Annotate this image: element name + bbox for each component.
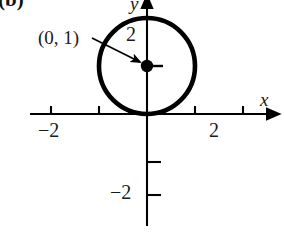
x-axis-label: x — [260, 90, 268, 109]
figure-panel: (b) (0, 1) x y −2 2 2 −2 — [0, 0, 284, 234]
panel-label: (b) — [0, 0, 24, 10]
center-point-annotation-label: (0, 1) — [38, 28, 79, 47]
y-tick-label-minus2: −2 — [110, 182, 131, 202]
x-tick-label-minus2: −2 — [38, 120, 59, 140]
circle-center-point — [141, 60, 153, 72]
x-tick-label-plus2: 2 — [209, 120, 219, 140]
y-tick-label-plus2: 2 — [126, 24, 136, 44]
y-axis-label: y — [130, 0, 138, 13]
